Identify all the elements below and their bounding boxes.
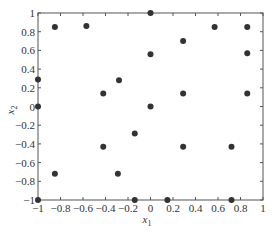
y-tick-label: 0	[30, 101, 36, 113]
x-tick-label: 0.2	[166, 202, 180, 214]
x-tick-label: −0.4	[96, 202, 116, 214]
x-tick-label: 0.6	[211, 202, 225, 214]
data-point-marker	[52, 24, 58, 30]
data-point-marker	[229, 144, 235, 150]
data-point-marker	[35, 197, 41, 203]
data-point-marker	[180, 90, 186, 96]
data-point-marker	[132, 197, 138, 203]
x-tick-label: −0.6	[73, 202, 93, 214]
x-axis-label: x1	[142, 213, 152, 228]
data-point-marker	[52, 171, 58, 177]
y-axis-label: x2	[4, 106, 19, 116]
x-tick-label: 0	[148, 202, 154, 214]
y-tick-label: −1	[23, 194, 35, 206]
x-tick-label: −0.8	[51, 202, 71, 214]
y-tick-label: −0.4	[15, 138, 35, 150]
data-point-marker	[244, 24, 250, 30]
x-axis-ticks: −1−0.8−0.6−0.4−0.200.20.40.60.81	[32, 13, 266, 214]
y-tick-label: 1	[30, 7, 36, 19]
data-point-marker	[115, 171, 121, 177]
data-point-marker	[148, 10, 154, 16]
y-tick-label: −0.8	[15, 175, 35, 187]
data-point-marker	[116, 77, 122, 83]
data-points	[35, 10, 250, 203]
y-tick-label: 0.6	[21, 44, 35, 56]
data-point-marker	[35, 104, 41, 110]
x-tick-label: 0.4	[189, 202, 203, 214]
data-point-marker	[212, 24, 218, 30]
data-point-marker	[100, 144, 106, 150]
y-tick-label: 0.4	[21, 63, 35, 75]
y-tick-label: −0.2	[15, 119, 35, 131]
y-tick-label: 0.8	[21, 26, 35, 38]
data-point-marker	[164, 197, 170, 203]
x-tick-label: 1	[260, 202, 266, 214]
data-point-marker	[244, 50, 250, 56]
scatter-chart: −1−0.8−0.6−0.4−0.200.20.40.60.81 10.80.6…	[0, 0, 277, 235]
data-point-marker	[148, 104, 154, 110]
data-point-marker	[148, 51, 154, 57]
data-point-marker	[83, 23, 89, 29]
y-axis-ticks: 10.80.60.40.20−0.2−0.4−0.6−0.8−1	[15, 7, 263, 206]
y-tick-label: −0.6	[15, 157, 35, 169]
data-point-marker	[244, 90, 250, 96]
data-point-marker	[132, 131, 138, 137]
data-point-marker	[180, 144, 186, 150]
data-point-marker	[35, 76, 41, 82]
x-tick-label: −0.2	[118, 202, 138, 214]
data-point-marker	[100, 90, 106, 96]
data-point-marker	[229, 197, 235, 203]
y-tick-label: 0.2	[21, 82, 35, 94]
data-point-marker	[180, 38, 186, 44]
x-tick-label: 0.8	[234, 202, 248, 214]
